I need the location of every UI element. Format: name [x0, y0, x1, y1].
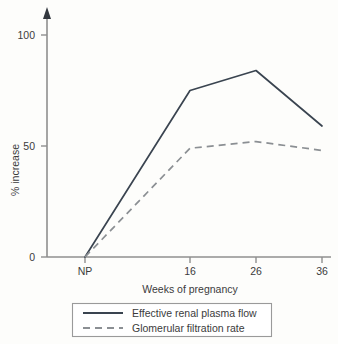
legend: Effective renal plasma flow Glomerular f… [73, 304, 272, 337]
line-chart: 100 50 0 % increase NP 16 26 36 Weeks of… [0, 0, 338, 344]
x-axis-title: Weeks of pregnancy [142, 283, 238, 295]
y-tick-label-50: 50 [23, 140, 35, 152]
legend-label-glomerular-filtration-rate: Glomerular filtration rate [132, 322, 245, 334]
x-tick-label-np: NP [78, 265, 93, 277]
y-axis-title: % increase [9, 144, 21, 196]
x-tick-label-36: 36 [316, 265, 328, 277]
y-tick-label-100: 100 [17, 29, 35, 41]
x-tick-label-16: 16 [184, 265, 196, 277]
x-tick-label-26: 26 [250, 265, 262, 277]
legend-label-effective-renal-plasma-flow: Effective renal plasma flow [132, 307, 257, 319]
chart-figure: 100 50 0 % increase NP 16 26 36 Weeks of… [0, 0, 338, 344]
y-tick-label-0: 0 [29, 251, 35, 263]
